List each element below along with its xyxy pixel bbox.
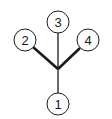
node-1: 1 [47,93,69,115]
node-4-label: 4 [84,33,91,48]
edge-junction-to-node-4 [58,48,80,69]
node-1-label: 1 [54,97,61,112]
node-3: 3 [47,11,69,33]
node-2-label: 2 [21,33,28,48]
node-2: 2 [14,29,36,51]
node-3-label: 3 [54,15,61,30]
tree-diagram: 1 2 3 4 [0,0,112,119]
edge-junction-to-node-2 [33,47,58,69]
node-4: 4 [77,29,99,51]
